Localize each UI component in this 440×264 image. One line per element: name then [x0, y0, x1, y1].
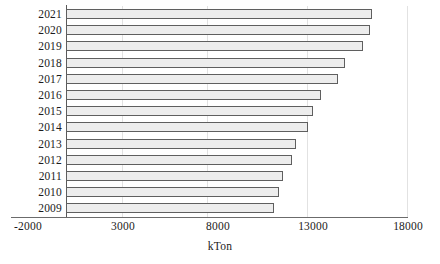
category-label-2014: 2014	[0, 119, 62, 135]
bar-row	[66, 184, 408, 200]
bar-2018	[66, 58, 345, 68]
category-label-2009: 2009	[0, 200, 62, 216]
bar-row	[66, 22, 408, 38]
value-axis-line	[11, 217, 408, 218]
value-tick--2000: -2000	[14, 220, 42, 232]
category-axis-labels: 2021202020192018201720162015201420132012…	[0, 6, 62, 217]
x-axis-title: kTon	[0, 240, 440, 252]
value-axis-labels: -2000300080001300018000	[0, 220, 440, 238]
bar-row	[66, 38, 408, 54]
value-tick-3000: 3000	[111, 220, 135, 232]
bar-row	[66, 200, 408, 216]
bar-2014	[66, 122, 308, 132]
category-label-2020: 2020	[0, 22, 62, 38]
category-label-2012: 2012	[0, 152, 62, 168]
bar-2016	[66, 90, 321, 100]
category-label-2016: 2016	[0, 87, 62, 103]
category-label-2010: 2010	[0, 184, 62, 200]
category-label-2011: 2011	[0, 168, 62, 184]
category-label-2017: 2017	[0, 71, 62, 87]
bar-chart: 2021202020192018201720162015201420132012…	[0, 0, 440, 264]
bar-row	[66, 87, 408, 103]
value-tick-18000: 18000	[393, 220, 423, 232]
category-label-2018: 2018	[0, 55, 62, 71]
bar-series	[66, 6, 408, 217]
category-label-2021: 2021	[0, 6, 62, 22]
bar-2020	[66, 25, 370, 35]
category-label-2019: 2019	[0, 38, 62, 54]
category-label-2015: 2015	[0, 103, 62, 119]
bar-2013	[66, 139, 296, 149]
bar-row	[66, 6, 408, 22]
bar-row	[66, 103, 408, 119]
bar-2009	[66, 203, 274, 213]
bar-2012	[66, 155, 292, 165]
value-tick-13000: 13000	[298, 220, 328, 232]
bar-2010	[66, 187, 279, 197]
bar-row	[66, 168, 408, 184]
bar-row	[66, 71, 408, 87]
bar-2021	[66, 9, 372, 19]
bar-row	[66, 152, 408, 168]
bar-2015	[66, 106, 313, 116]
bar-2017	[66, 74, 338, 84]
bar-row	[66, 119, 408, 135]
bar-row	[66, 55, 408, 71]
bar-2019	[66, 41, 363, 51]
category-label-2013: 2013	[0, 136, 62, 152]
bar-row	[66, 136, 408, 152]
bar-2011	[66, 171, 283, 181]
value-tick-8000: 8000	[206, 220, 230, 232]
